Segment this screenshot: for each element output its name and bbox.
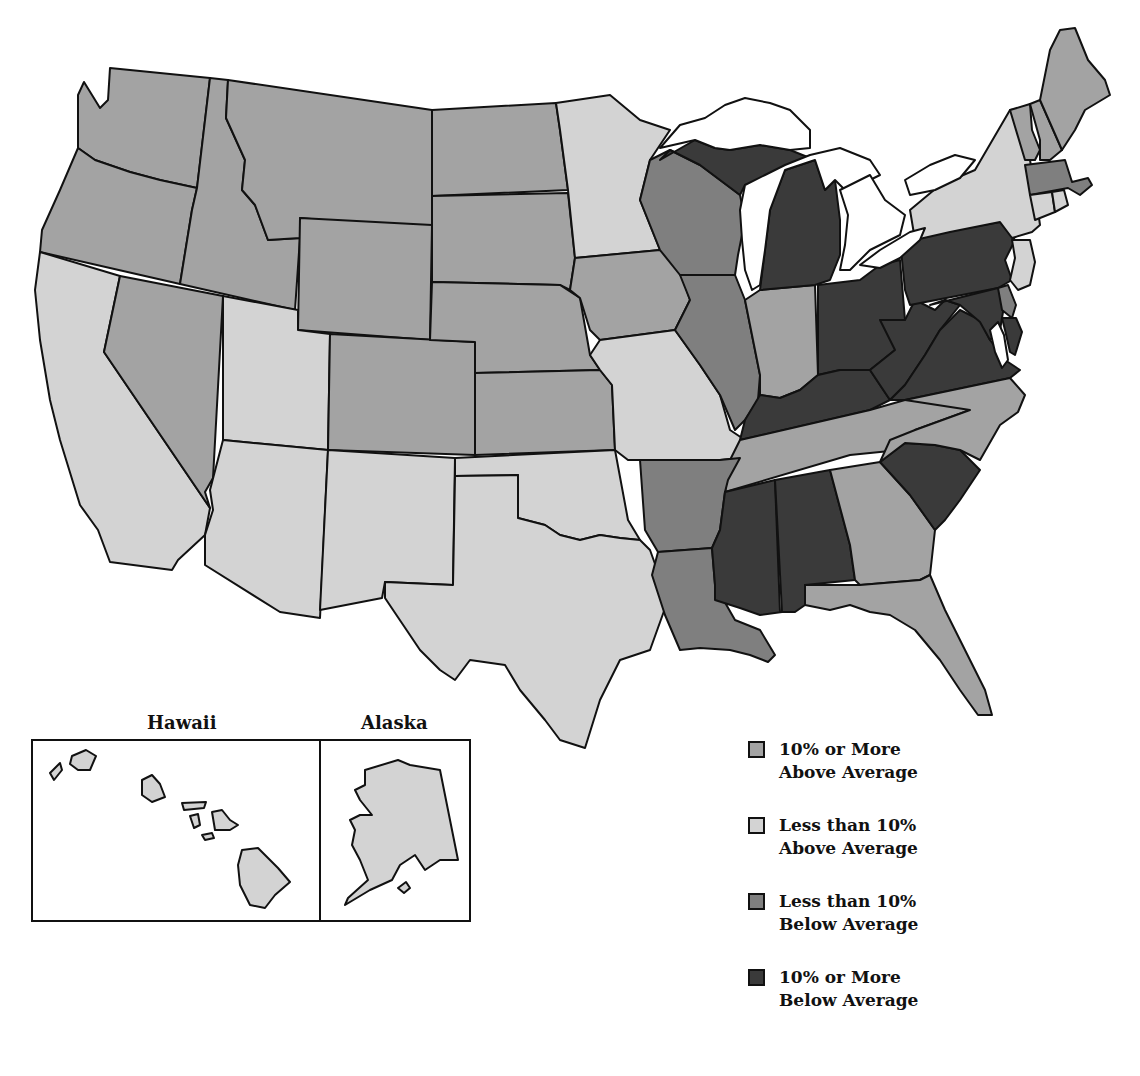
legend-item-above-10: 10% or More Above Average xyxy=(748,738,968,784)
alaska-label: Alaska xyxy=(361,712,428,733)
legend-item-below-10: 10% or More Below Average xyxy=(748,966,968,1012)
state-massachusetts xyxy=(1025,160,1092,195)
legend-swatch xyxy=(748,969,765,986)
legend-label-line2: Below Average xyxy=(779,989,918,1012)
legend-label-line2: Below Average xyxy=(779,913,918,936)
state-colorado xyxy=(328,334,475,455)
legend-swatch xyxy=(748,741,765,758)
state-connecticut xyxy=(1030,192,1055,220)
state-arizona xyxy=(205,440,328,618)
legend-item-below-lt10: Less than 10% Below Average xyxy=(748,890,968,936)
state-hawaii-kahoolawe xyxy=(202,833,214,840)
legend-label-line2: Above Average xyxy=(779,837,918,860)
hawaii-label: Hawaii xyxy=(147,712,217,733)
us-choropleth-map xyxy=(0,0,1140,1076)
state-wyoming xyxy=(298,218,432,340)
state-rhode-island xyxy=(1052,190,1068,212)
legend-swatch xyxy=(748,817,765,834)
state-kansas xyxy=(475,370,615,455)
state-hawaii-molokai xyxy=(182,802,206,810)
legend-label-line2: Above Average xyxy=(779,761,918,784)
state-south-dakota xyxy=(432,193,575,290)
legend-label-line1: Less than 10% xyxy=(779,890,918,913)
legend: 10% or More Above Average Less than 10% … xyxy=(748,738,968,1042)
legend-label-line1: Less than 10% xyxy=(779,814,918,837)
legend-label-line1: 10% or More xyxy=(779,966,918,989)
lake-superior xyxy=(660,98,810,150)
legend-swatch xyxy=(748,893,765,910)
state-florida xyxy=(805,575,992,715)
state-new-jersey xyxy=(1010,240,1035,290)
state-north-dakota xyxy=(432,103,568,196)
legend-label-line1: 10% or More xyxy=(779,738,918,761)
legend-item-above-lt10: Less than 10% Above Average xyxy=(748,814,968,860)
